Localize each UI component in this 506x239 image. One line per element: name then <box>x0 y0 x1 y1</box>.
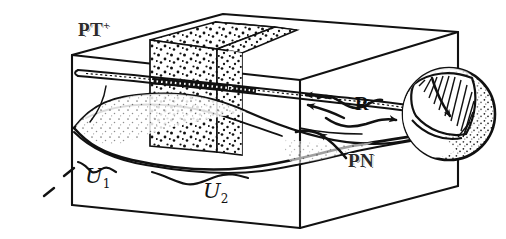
box-edge-bottom-right <box>300 186 458 228</box>
box-top-face <box>72 14 458 80</box>
tick-mark-b <box>44 188 54 196</box>
arrow-R-lower-curve <box>326 118 396 126</box>
figure-canvas <box>0 0 506 239</box>
figure-root: PT+ PN R U1 U2 <box>0 0 506 239</box>
region-label-u1: U1 <box>85 166 110 190</box>
arrow-into-surface <box>308 105 344 118</box>
sphere-graphic <box>391 60 495 166</box>
rod-left-cap <box>75 70 78 76</box>
map-label-r: R <box>355 94 369 113</box>
slab-b-side <box>228 50 242 155</box>
brace-u2 <box>152 172 248 184</box>
box-edge-bottom-left <box>72 205 300 228</box>
rod-dark-segment-b <box>232 88 256 91</box>
surface-label-pn: PN <box>348 151 374 170</box>
region-label-u2: U2 <box>203 181 228 205</box>
pointer-arrows <box>306 95 344 118</box>
tick-marks <box>44 168 74 196</box>
box-label-pt-plus: PT+ <box>78 20 110 39</box>
